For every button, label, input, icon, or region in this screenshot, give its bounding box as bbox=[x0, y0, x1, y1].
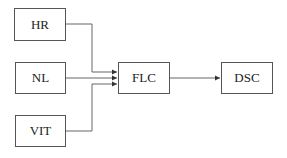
node-hr-label: HR bbox=[31, 17, 49, 33]
node-dsc: DSC bbox=[221, 62, 273, 94]
node-hr: HR bbox=[14, 8, 66, 41]
node-flc-label: FLC bbox=[132, 70, 156, 86]
node-vit-label: VIT bbox=[30, 123, 52, 139]
node-flc: FLC bbox=[118, 62, 170, 94]
node-nl: NL bbox=[15, 62, 66, 94]
edge-vit-flc bbox=[66, 84, 117, 131]
node-vit: VIT bbox=[15, 115, 66, 147]
edge-hr-flc bbox=[66, 24, 117, 72]
node-dsc-label: DSC bbox=[234, 70, 259, 86]
node-nl-label: NL bbox=[32, 70, 49, 86]
